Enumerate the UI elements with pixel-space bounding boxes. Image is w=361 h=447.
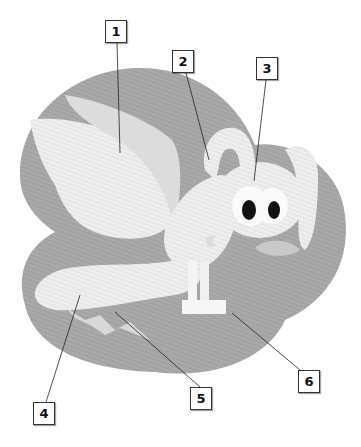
label-3: 3 xyxy=(256,57,278,80)
eye-right xyxy=(268,201,280,219)
label-6: 6 xyxy=(298,370,320,393)
eye-left xyxy=(242,200,256,220)
front-feet xyxy=(182,300,226,314)
diagram-canvas: 1 2 3 4 5 6 xyxy=(0,0,361,447)
front-leg-right xyxy=(200,262,209,300)
label-4: 4 xyxy=(33,402,55,425)
front-leg-left xyxy=(188,260,197,300)
label-5: 5 xyxy=(190,387,212,410)
label-2: 2 xyxy=(172,50,194,73)
label-1: 1 xyxy=(105,20,127,43)
